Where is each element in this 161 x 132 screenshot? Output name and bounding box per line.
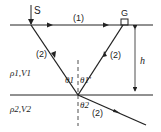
angle-refracted-label: θ2 <box>80 100 89 110</box>
direct-ray-label: (1) <box>73 13 84 23</box>
geophone-label: G <box>121 8 128 18</box>
direct-ray-arrow-2 <box>103 23 109 28</box>
ray-arrow-refracted <box>113 109 120 113</box>
thickness-label: h <box>140 55 145 66</box>
layer1-label: ρ1,V1 <box>9 68 31 78</box>
geophone-icon <box>121 19 128 25</box>
layer2-label: ρ2,V2 <box>9 104 32 114</box>
seismic-diagram: S G (1) (2) (2) (2) h ρ1,V1 ρ2,V2 θ1 θ1'… <box>0 0 161 132</box>
source-label: S <box>34 5 41 16</box>
angle-reflected-label: θ1' <box>80 75 92 85</box>
direct-ray-arrow-1 <box>47 23 53 28</box>
refracted-label: (2) <box>92 108 103 118</box>
ray-up-label: (2) <box>110 50 121 60</box>
angle-incident-label: θ1 <box>65 75 74 85</box>
ray-down-label: (2) <box>36 49 47 59</box>
